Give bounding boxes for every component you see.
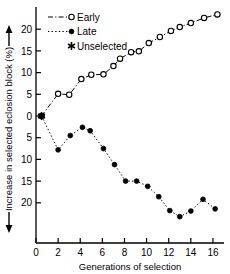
data-point xyxy=(177,24,182,29)
data-point xyxy=(156,194,161,199)
y-tick-label: 5 xyxy=(26,89,32,100)
series-early xyxy=(39,12,220,119)
series-line xyxy=(42,116,216,217)
data-point xyxy=(56,147,61,152)
series-late xyxy=(39,114,217,219)
x-axis-title: Generations of selection xyxy=(79,261,181,272)
y-tick-label: 15 xyxy=(21,46,33,57)
y-tick-label: 10 xyxy=(21,154,33,165)
data-point xyxy=(112,162,117,167)
y-tick-label: 20 xyxy=(21,197,33,208)
x-tick-label: 8 xyxy=(122,247,128,258)
data-point xyxy=(215,12,220,17)
y-axis-ticks: 201510505101520 xyxy=(21,24,41,209)
legend-label: Late xyxy=(77,26,97,37)
data-point xyxy=(188,209,193,214)
chart-svg: Increase in selected eclosion block (%) … xyxy=(0,0,230,274)
x-axis-ticks: 0246810121416 xyxy=(33,238,219,258)
data-point xyxy=(201,15,206,20)
x-tick-label: 10 xyxy=(141,247,153,258)
y-tick-label: 15 xyxy=(21,176,33,187)
data-point xyxy=(157,34,162,39)
x-tick-label: 4 xyxy=(77,247,83,258)
data-point xyxy=(213,206,218,211)
legend-item-unselected: Unselected xyxy=(68,41,127,52)
data-point xyxy=(89,72,94,77)
x-tick-label: 0 xyxy=(33,247,39,258)
x-tick-label: 2 xyxy=(55,247,61,258)
y-tick-label: 10 xyxy=(21,67,33,78)
data-point xyxy=(55,91,60,96)
data-point xyxy=(145,184,150,189)
data-point xyxy=(111,63,116,68)
data-series-layer xyxy=(38,12,220,219)
data-point xyxy=(201,197,206,202)
data-point xyxy=(123,179,128,184)
data-point xyxy=(117,56,122,61)
series-line xyxy=(42,14,218,116)
data-point xyxy=(101,146,106,151)
axis-lines xyxy=(36,7,224,243)
data-point xyxy=(128,50,133,55)
data-point xyxy=(80,125,85,130)
data-point xyxy=(167,208,172,213)
data-point xyxy=(68,133,73,138)
legend-marker xyxy=(69,14,74,19)
legend-label: Unselected xyxy=(77,41,127,52)
y-tick-label: 5 xyxy=(26,132,32,143)
y-tick-label: 20 xyxy=(21,24,33,35)
data-point xyxy=(188,20,193,25)
data-point xyxy=(88,128,93,133)
data-point xyxy=(66,92,71,97)
x-tick-label: 14 xyxy=(185,247,197,258)
legend-marker xyxy=(69,29,74,34)
legend-marker xyxy=(68,42,75,50)
legend-item-early: Early xyxy=(48,12,100,23)
y-axis-up-arrow-icon xyxy=(6,25,13,46)
chart-legend: EarlyLateUnselected xyxy=(48,12,127,52)
y-axis-down-arrow-icon xyxy=(6,212,13,233)
data-point xyxy=(146,40,151,45)
data-point xyxy=(79,76,84,81)
y-tick-label: 0 xyxy=(26,111,32,122)
legend-label: Early xyxy=(77,12,100,23)
data-point xyxy=(177,214,182,219)
y-axis-label-group: Increase in selected eclosion block (%) xyxy=(3,25,14,233)
y-axis-title: Increase in selected eclosion block (%) xyxy=(3,47,14,211)
data-point xyxy=(101,72,106,77)
legend-item-late: Late xyxy=(48,26,97,37)
data-point xyxy=(134,179,139,184)
x-tick-label: 16 xyxy=(207,247,219,258)
x-tick-label: 6 xyxy=(100,247,106,258)
x-tick-label: 12 xyxy=(163,247,175,258)
data-point xyxy=(168,28,173,33)
data-point xyxy=(136,49,141,54)
figure-container: Increase in selected eclosion block (%) … xyxy=(0,0,230,274)
